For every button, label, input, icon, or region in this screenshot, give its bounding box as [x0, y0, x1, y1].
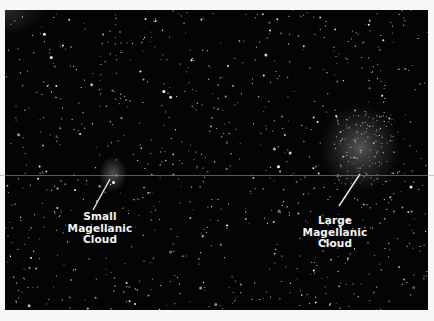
star-field	[5, 10, 428, 310]
large-magellanic-cloud	[320, 104, 400, 192]
small-magellanic-cloud-label: Small Magellanic Cloud	[65, 211, 135, 246]
large-magellanic-cloud-label: Large Magellanic Cloud	[300, 215, 370, 250]
horizontal-scan-line	[0, 175, 434, 176]
small-magellanic-cloud	[99, 156, 127, 192]
star-field-photo: Small Magellanic Cloud Large Magellanic …	[5, 10, 428, 310]
